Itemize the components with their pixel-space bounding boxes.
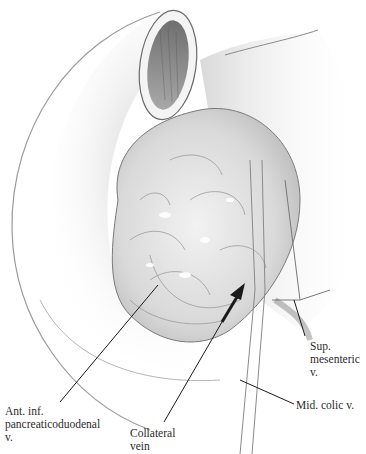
label-line: Sup. bbox=[310, 340, 360, 353]
label-sup-mesenteric-vein: Sup. mesenteric v. bbox=[310, 340, 360, 379]
label-line: vein bbox=[130, 440, 175, 453]
label-line: v. bbox=[5, 431, 100, 444]
label-ant-inf-pancreaticoduodenal-vein: Ant. inf. pancreaticoduodenal v. bbox=[5, 405, 100, 444]
label-line: pancreaticoduodenal bbox=[5, 418, 100, 431]
label-line: v. bbox=[310, 366, 360, 379]
anatomical-illustration bbox=[0, 0, 366, 454]
label-line: mesenteric bbox=[310, 353, 360, 366]
leader-mcv bbox=[240, 380, 294, 404]
label-collateral-vein: Collateral vein bbox=[130, 427, 175, 453]
label-line: Mid. colic v. bbox=[296, 399, 354, 412]
label-line: Ant. inf. bbox=[5, 405, 100, 418]
label-line: Collateral bbox=[130, 427, 175, 440]
label-mid-colic-vein: Mid. colic v. bbox=[296, 399, 354, 412]
